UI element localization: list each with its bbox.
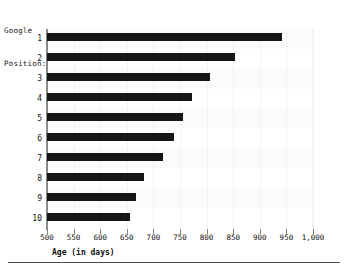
bar <box>47 73 210 81</box>
bar <box>47 133 174 141</box>
y-tick-label: 7 <box>2 155 42 163</box>
bottom-divider <box>8 262 340 263</box>
y-tick-label: 8 <box>2 175 42 183</box>
bar <box>47 33 282 41</box>
x-tick-label: 1,000 <box>302 234 325 242</box>
bar <box>47 173 144 181</box>
x-axis-title: Age (in days) <box>52 248 115 257</box>
y-tick-label: 3 <box>2 75 42 83</box>
y-tick-label: 5 <box>2 115 42 123</box>
bar <box>47 193 136 201</box>
x-tick-label: 700 <box>147 234 161 242</box>
gridline <box>260 29 261 228</box>
x-tick-label: 750 <box>173 234 187 242</box>
y-tick-label: 4 <box>2 95 42 103</box>
y-tick-label: 9 <box>2 195 42 203</box>
x-tick-label: 900 <box>253 234 267 242</box>
x-tick-label: 850 <box>226 234 240 242</box>
x-tick-label: 650 <box>120 234 134 242</box>
y-tick-label: 1 <box>2 35 42 43</box>
y-tick-label: 10 <box>2 215 42 223</box>
bar <box>47 93 192 101</box>
bar <box>47 53 235 61</box>
x-tick-label: 550 <box>67 234 81 242</box>
bar <box>47 113 183 121</box>
bar <box>47 213 130 221</box>
bar <box>47 153 163 161</box>
x-tick-label: 500 <box>40 234 54 242</box>
bar-chart: Google Position: 12345678910 50055060065… <box>0 0 348 273</box>
y-tick-label: 6 <box>2 135 42 143</box>
x-tick-label: 800 <box>200 234 214 242</box>
y-tick-label: 2 <box>2 55 42 63</box>
x-tick-label: 950 <box>280 234 294 242</box>
gridline <box>286 29 287 228</box>
gridline <box>313 29 314 228</box>
x-tick-label: 600 <box>93 234 107 242</box>
